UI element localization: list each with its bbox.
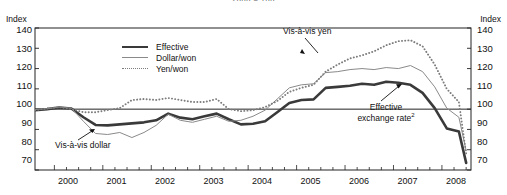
- series-dollar-won: [35, 66, 466, 151]
- leader-yen-arrow: [300, 49, 305, 54]
- leader-dollar: [78, 131, 92, 140]
- data-series-group: [35, 40, 466, 163]
- leader-yen: [305, 38, 318, 53]
- chart-plot-svg: [0, 0, 507, 195]
- series-yen-won: [35, 40, 466, 154]
- plot-frame: [35, 28, 471, 170]
- series-effective: [35, 82, 466, 163]
- chart-root: 2000 = 100 Index Index 140 130 120 110 1…: [0, 0, 507, 195]
- leader-effective: [381, 86, 399, 101]
- axis-ticks: [35, 28, 471, 170]
